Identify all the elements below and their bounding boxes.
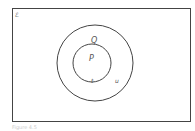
element-t: t — [91, 77, 94, 84]
set-p-label: P — [89, 54, 94, 63]
venn-diagram: ℰ Q P t u — [0, 0, 195, 131]
set-q-label: Q — [91, 36, 97, 45]
figure-caption: Figure 4.5 — [12, 124, 37, 130]
element-u: u — [115, 77, 119, 84]
universal-set-label: ℰ — [15, 11, 19, 18]
